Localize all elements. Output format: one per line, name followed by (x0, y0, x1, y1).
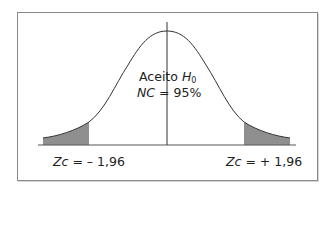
accept-h0-label: Aceito H0 (139, 71, 196, 85)
right-critical-value-label: Zc = + 1,96 (226, 156, 302, 169)
left-rejection-region (43, 122, 89, 145)
left-critical-value-label: Zc = – 1,96 (53, 156, 125, 169)
right-rejection-region (244, 122, 290, 145)
confidence-level-label: NC = 95% (137, 87, 201, 100)
